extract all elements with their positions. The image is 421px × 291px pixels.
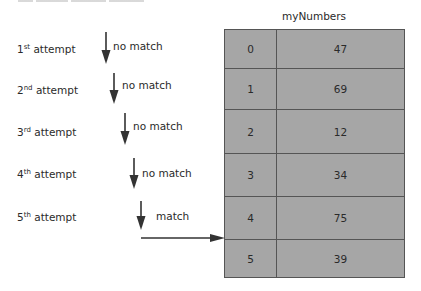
down-arrow-icon-1 [102,32,111,64]
value-cell: 34 [277,154,404,196]
index-cell: 0 [225,30,277,68]
array-table: 0 47 1 69 2 12 3 34 4 75 5 39 [224,29,405,278]
index-cell: 2 [225,110,277,153]
array-row: 5 39 [225,239,404,277]
array-name-title: myNumbers [224,10,404,22]
value-cell: 39 [277,240,404,277]
index-cell: 5 [225,240,277,277]
value-cell: 12 [277,110,404,153]
value-cell: 75 [277,197,404,239]
down-arrow-icon-4 [130,158,139,189]
array-row: 3 34 [225,153,404,196]
array-row: 4 75 [225,196,404,239]
index-cell: 1 [225,69,277,109]
down-arrow-icon-2 [110,73,119,104]
index-cell: 4 [225,197,277,239]
down-arrow-icon-3 [121,113,130,145]
value-cell: 47 [277,30,404,68]
array-row: 1 69 [225,68,404,109]
right-arrow-icon-to-match [141,234,225,242]
array-row: 0 47 [225,30,404,68]
index-cell: 3 [225,154,277,196]
down-arrow-icon-5 [137,201,146,230]
value-cell: 69 [277,69,404,109]
array-row: 2 12 [225,109,404,153]
